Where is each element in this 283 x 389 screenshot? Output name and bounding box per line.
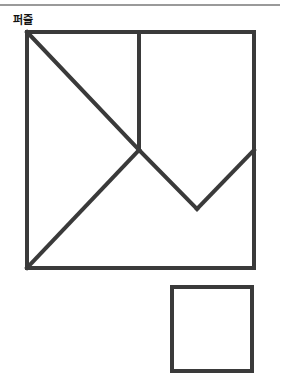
small-square	[172, 287, 252, 371]
v-right-line	[197, 150, 254, 209]
puzzle-figure	[0, 0, 283, 389]
diagonal-bottom-left-to-center-line	[27, 150, 139, 268]
puzzle-lines	[27, 32, 254, 268]
v-left-line	[139, 150, 197, 209]
diagonal-top-left-to-center-line	[27, 32, 139, 150]
